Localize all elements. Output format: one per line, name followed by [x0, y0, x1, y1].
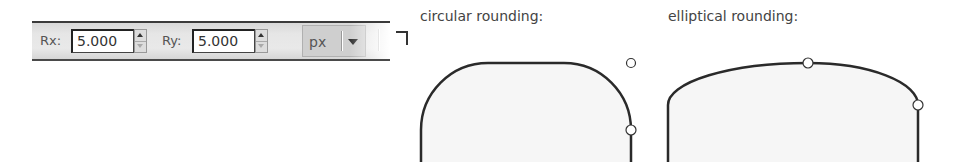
- circular-rounded-rect: [421, 59, 636, 163]
- ry-handle-icon[interactable]: [626, 125, 636, 135]
- rounding-illustrations: [0, 0, 963, 162]
- rx-handle-icon[interactable]: [803, 58, 813, 68]
- ry-handle-icon[interactable]: [913, 100, 923, 110]
- rx-handle-icon[interactable]: [627, 59, 636, 68]
- elliptical-rounded-rect: [668, 58, 923, 162]
- not-rounded-corner-icon[interactable]: [396, 31, 408, 45]
